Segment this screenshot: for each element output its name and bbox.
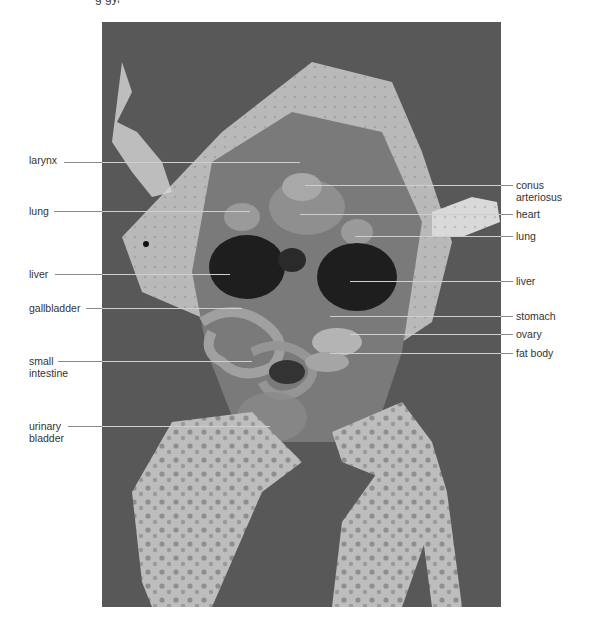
label-urinary-bladder-line2: bladder <box>29 432 64 444</box>
leader-lung-left <box>54 211 102 212</box>
leader-stomach-photo <box>330 316 501 317</box>
label-liver-left: liver <box>29 268 48 280</box>
leader-liver-right <box>501 281 513 282</box>
leader-gallbladder <box>86 308 102 309</box>
leader-small-intestine-photo <box>102 361 252 362</box>
label-heart: heart <box>516 208 540 220</box>
label-stomach: stomach <box>516 310 556 322</box>
label-gallbladder: gallbladder <box>29 302 80 314</box>
label-ovary: ovary <box>516 328 542 340</box>
label-conus-arteriosus-line1: conus <box>516 179 562 191</box>
leader-ovary <box>501 334 513 335</box>
label-conus-arteriosus-line2: arteriosus <box>516 191 562 203</box>
leader-gallbladder-photo <box>102 308 242 309</box>
label-fat-body: fat body <box>516 347 553 359</box>
leader-urinary-bladder-photo <box>102 426 270 427</box>
leader-stomach <box>501 316 513 317</box>
leader-liver-left <box>55 274 102 275</box>
label-larynx: larynx <box>29 154 57 166</box>
leader-heart <box>501 214 513 215</box>
label-liver-right: liver <box>516 275 535 287</box>
leader-lung-left-photo <box>102 211 250 212</box>
leader-ovary-photo <box>350 334 501 335</box>
leader-conus-photo <box>305 185 501 186</box>
label-lung-right: lung <box>516 230 536 242</box>
frog-dissection-photo <box>102 22 501 607</box>
label-urinary-bladder: urinary bladder <box>29 420 64 444</box>
label-conus-arteriosus: conus arteriosus <box>516 179 562 203</box>
leader-fat-body-photo <box>330 353 501 354</box>
leader-lung-right-photo <box>355 236 501 237</box>
label-urinary-bladder-line1: urinary <box>29 420 64 432</box>
frog-illustration <box>102 22 501 607</box>
leader-conus <box>501 185 513 186</box>
label-small-intestine-line2: intestine <box>29 367 68 379</box>
figure-caption-partial: g gy, <box>95 0 120 5</box>
leader-urinary-bladder <box>68 426 102 427</box>
leader-liver-right-photo <box>350 281 501 282</box>
label-lung-left: lung <box>29 205 49 217</box>
leader-lung-right <box>501 236 513 237</box>
leader-small-intestine <box>58 361 102 362</box>
leader-liver-left-photo <box>102 274 230 275</box>
leader-heart-photo <box>300 214 501 215</box>
leader-fat-body <box>501 353 513 354</box>
leader-larynx-photo <box>102 162 300 163</box>
label-small-intestine: small intestine <box>29 355 68 379</box>
leader-larynx <box>64 162 102 163</box>
